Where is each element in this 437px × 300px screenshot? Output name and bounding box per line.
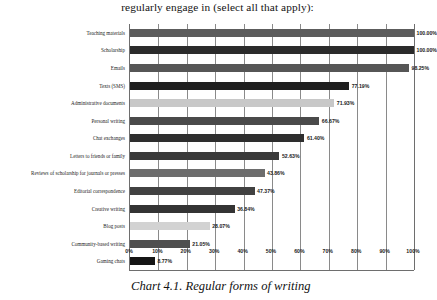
bar	[130, 152, 279, 160]
category-label: Personal writing	[91, 118, 125, 124]
chart-caption: Chart 4.1. Regular forms of writing	[131, 279, 310, 294]
plot-area: 100.00%100.00%98.25%77.19%71.93%66.67%61…	[129, 24, 414, 271]
bar-row: 100.00%	[130, 46, 414, 54]
bar-value-label: 28.07%	[210, 223, 230, 229]
bar	[130, 99, 334, 107]
x-tick-label: 70%	[323, 248, 333, 254]
x-tick-label: 80%	[351, 248, 361, 254]
bar	[130, 29, 414, 37]
category-label: Chat exchanges	[93, 135, 125, 141]
category-label: Creative writing	[92, 206, 125, 212]
category-label: Blog posts	[103, 223, 125, 229]
bar	[130, 187, 255, 195]
gridline	[386, 24, 387, 270]
x-tick-label: 30%	[209, 248, 219, 254]
bar-row: 28.07%	[130, 222, 414, 230]
gridline	[357, 24, 358, 270]
category-label: Emails	[111, 65, 125, 71]
bar	[130, 117, 319, 125]
bar	[130, 169, 265, 177]
bar-value-label: 43.86%	[265, 170, 285, 176]
bar-value-label: 52.63%	[279, 153, 299, 159]
x-tick-label: 10%	[152, 248, 162, 254]
x-tick-label: 60%	[294, 248, 304, 254]
bar-row: 36.84%	[130, 205, 414, 213]
bar-value-label: 66.67%	[319, 118, 339, 124]
bar-value-label: 98.25%	[409, 65, 429, 71]
category-label: Gaming chats	[97, 258, 125, 264]
bar-row: 47.37%	[130, 187, 414, 195]
category-label: Community-based writing	[71, 241, 125, 247]
bar-row: 52.63%	[130, 152, 414, 160]
gridline	[300, 24, 301, 270]
bar-value-label: 77.19%	[349, 83, 369, 89]
category-label: Texts (SMS)	[99, 83, 125, 89]
gridline	[272, 24, 273, 270]
x-tick-label: 100%	[406, 248, 419, 254]
bar-value-label: 100.00%	[414, 47, 437, 53]
bar-row: 98.25%	[130, 64, 414, 72]
bar-row: 100.00%	[130, 29, 414, 37]
bar	[130, 46, 414, 54]
gridline	[187, 24, 188, 270]
gridline	[215, 24, 216, 270]
bar-row: 61.40%	[130, 134, 414, 142]
bar	[130, 205, 235, 213]
bar-row: 43.86%	[130, 169, 414, 177]
bar-row: 66.67%	[130, 117, 414, 125]
bar-value-label: 36.84%	[235, 206, 255, 212]
bar	[130, 134, 304, 142]
bar-value-label: 61.40%	[304, 135, 324, 141]
x-tick-label: 20%	[181, 248, 191, 254]
gridline	[329, 24, 330, 270]
x-axis-ticks: 0%10%20%30%40%50%60%70%80%90%100%	[129, 247, 414, 259]
x-tick-label: 0%	[125, 248, 133, 254]
bar-row: 77.19%	[130, 82, 414, 90]
x-tick-label: 40%	[237, 248, 247, 254]
category-label: Editorial correspondence	[74, 188, 125, 194]
gridline	[158, 24, 159, 270]
bar-value-label: 8.77%	[155, 258, 172, 264]
gridline	[414, 24, 415, 270]
bar-row: 71.93%	[130, 99, 414, 107]
category-axis: Teaching materialsScholarshipEmailsTexts…	[0, 24, 128, 270]
bar	[130, 222, 210, 230]
bar	[130, 64, 409, 72]
x-tick-label: 50%	[266, 248, 276, 254]
bar	[130, 82, 349, 90]
gridline	[244, 24, 245, 270]
bar-value-label: 100.00%	[414, 30, 437, 36]
category-label: Scholarship	[101, 47, 125, 53]
x-tick-label: 90%	[379, 248, 389, 254]
bar-value-label: 71.93%	[334, 100, 354, 106]
chart-title: regularly engage in (select all that app…	[0, 1, 435, 13]
category-label: Administrative documents	[71, 100, 125, 106]
chart-plot-wrapper: Teaching materialsScholarshipEmailsTexts…	[0, 24, 435, 272]
category-label: Reviews of scholarship for journals or p…	[31, 170, 125, 176]
category-label: Letters to friends or family	[70, 153, 125, 159]
bar-value-label: 21.05%	[190, 241, 210, 247]
category-label: Teaching materials	[86, 30, 125, 36]
bar-value-label: 47.37%	[255, 188, 275, 194]
